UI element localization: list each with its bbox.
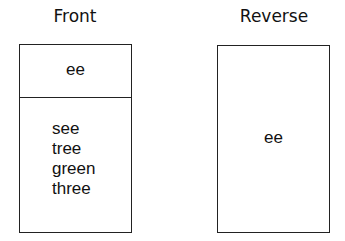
front-word-list: see tree green three bbox=[52, 119, 95, 199]
front-card-header: ee bbox=[20, 45, 131, 98]
word-item: tree bbox=[52, 139, 95, 159]
reverse-title: Reverse bbox=[204, 6, 344, 26]
reverse-text: ee bbox=[218, 128, 329, 148]
word-item: see bbox=[52, 119, 95, 139]
reverse-card: ee bbox=[217, 45, 330, 233]
front-card: ee see tree green three bbox=[19, 44, 132, 233]
word-item: three bbox=[52, 179, 95, 199]
front-title: Front bbox=[5, 6, 145, 26]
front-header-text: ee bbox=[20, 60, 131, 80]
word-item: green bbox=[52, 159, 95, 179]
